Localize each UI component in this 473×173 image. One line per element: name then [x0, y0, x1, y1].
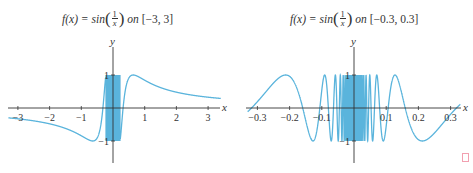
- left-y-tick-label: 1: [104, 70, 109, 81]
- left-x-axis-label: x: [221, 101, 227, 113]
- right-x-tick-label: 0.1: [380, 112, 393, 123]
- plot-canvas: xy−3−2−11231−1xy−0.3−0.2−0.10.10.20.31−1: [0, 0, 473, 173]
- left-y-tick-label: −1: [98, 136, 109, 147]
- left-x-tick-label: 2: [174, 112, 179, 123]
- left-x-tick-label: 3: [206, 112, 211, 123]
- left-x-tick-label: 1: [142, 112, 147, 123]
- left-x-tick-label: −2: [44, 112, 55, 123]
- corner-marker: [462, 153, 469, 162]
- left-x-tick-label: −3: [13, 112, 24, 123]
- right-x-axis-label: x: [462, 101, 468, 113]
- right-x-tick-label: −0.2: [281, 112, 299, 123]
- right-y-axis-label: y: [350, 35, 356, 47]
- left-y-axis-label: y: [109, 35, 115, 47]
- right-x-tick-label: 0.3: [444, 112, 457, 123]
- right-x-tick-label: 0.2: [412, 112, 425, 123]
- right-x-tick-label: −0.3: [248, 112, 266, 123]
- right-y-tick-label: 1: [345, 70, 350, 81]
- right-y-tick-label: −1: [339, 136, 350, 147]
- right-x-tick-label: −0.1: [313, 112, 331, 123]
- left-x-tick-label: −1: [76, 112, 87, 123]
